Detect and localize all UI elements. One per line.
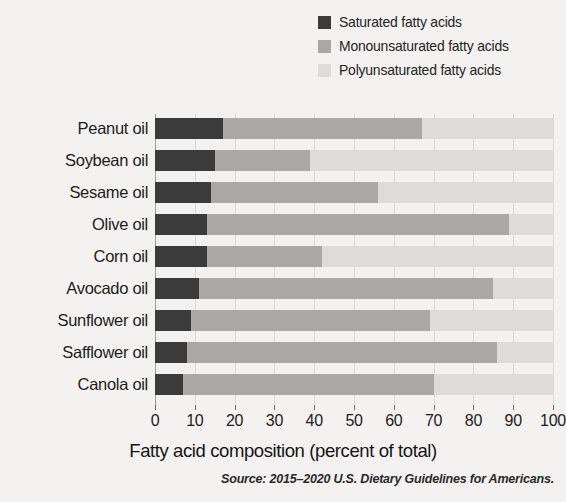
bar-segment bbox=[183, 374, 434, 395]
bar-segment bbox=[155, 342, 187, 363]
legend-item: Monounsaturated fatty acids bbox=[318, 34, 566, 58]
y-axis-label: Safflower oil bbox=[0, 343, 148, 362]
bar-row bbox=[155, 246, 553, 267]
bar-segment bbox=[422, 118, 553, 139]
bar-segment bbox=[434, 374, 553, 395]
bar-segment bbox=[191, 310, 430, 331]
bar-row bbox=[155, 118, 553, 139]
y-axis-label: Sunflower oil bbox=[0, 311, 148, 330]
legend-swatch-icon bbox=[318, 64, 331, 77]
bar-segment bbox=[497, 342, 553, 363]
tick-mark bbox=[473, 405, 474, 410]
bar-segment bbox=[187, 342, 497, 363]
bar-segment bbox=[207, 214, 509, 235]
bar-segment bbox=[310, 150, 553, 171]
x-axis-tick-label: 0 bbox=[151, 412, 160, 430]
bar-row bbox=[155, 310, 553, 331]
bar-segment bbox=[493, 278, 553, 299]
bar-segment bbox=[155, 278, 199, 299]
bar-segment bbox=[155, 150, 215, 171]
tick-mark bbox=[274, 405, 275, 410]
chart-page: { "chart_data": { "type": "bar", "orient… bbox=[0, 0, 566, 502]
bar-segment bbox=[155, 118, 223, 139]
tick-mark bbox=[394, 405, 395, 410]
bar-segment bbox=[155, 310, 191, 331]
tick-mark bbox=[155, 405, 156, 410]
bar-segment bbox=[430, 310, 553, 331]
bar-row bbox=[155, 342, 553, 363]
bar-segment bbox=[322, 246, 553, 267]
bar-segment bbox=[199, 278, 494, 299]
gridline bbox=[553, 114, 554, 408]
x-axis-tick-label: 10 bbox=[186, 412, 203, 430]
legend-item-label: Monounsaturated fatty acids bbox=[339, 38, 509, 54]
x-axis-tick-label: 100 bbox=[540, 412, 566, 430]
source-note: Source: 2015–2020 U.S. Dietary Guideline… bbox=[0, 472, 554, 486]
bar-row bbox=[155, 214, 553, 235]
tick-mark bbox=[354, 405, 355, 410]
bar-segment bbox=[155, 214, 207, 235]
bar-row bbox=[155, 374, 553, 395]
bar-segment bbox=[155, 182, 211, 203]
x-axis-tick-label: 30 bbox=[266, 412, 283, 430]
legend-item-label: Polyunsaturated fatty acids bbox=[339, 62, 501, 78]
bar-segment bbox=[509, 214, 553, 235]
legend-swatch-icon bbox=[318, 16, 331, 29]
tick-mark bbox=[513, 405, 514, 410]
tick-mark bbox=[434, 405, 435, 410]
x-axis-tick-label: 40 bbox=[306, 412, 323, 430]
x-axis-tick-label: 90 bbox=[505, 412, 522, 430]
y-axis-label: Corn oil bbox=[0, 247, 148, 266]
plot-area bbox=[155, 114, 553, 408]
legend-item: Saturated fatty acids bbox=[318, 10, 566, 34]
tick-mark bbox=[195, 405, 196, 410]
x-axis-tick-label: 50 bbox=[345, 412, 362, 430]
bar-segment bbox=[155, 246, 207, 267]
bar-row bbox=[155, 278, 553, 299]
x-axis-title: Fatty acid composition (percent of total… bbox=[0, 440, 566, 462]
bar-row bbox=[155, 182, 553, 203]
legend-item: Polyunsaturated fatty acids bbox=[318, 58, 566, 82]
bar-row bbox=[155, 150, 553, 171]
legend-swatch-icon bbox=[318, 40, 331, 53]
y-axis-label: Sesame oil bbox=[0, 183, 148, 202]
tick-mark bbox=[314, 405, 315, 410]
legend-item-label: Saturated fatty acids bbox=[339, 14, 462, 30]
y-axis-label: Canola oil bbox=[0, 375, 148, 394]
y-axis-label: Avocado oil bbox=[0, 279, 148, 298]
x-axis-tick-label: 20 bbox=[226, 412, 243, 430]
bar-segment bbox=[215, 150, 311, 171]
x-axis-tick-label: 70 bbox=[425, 412, 442, 430]
bar-segment bbox=[223, 118, 422, 139]
bar-segment bbox=[378, 182, 553, 203]
tick-mark bbox=[553, 405, 554, 410]
tick-mark bbox=[235, 405, 236, 410]
y-axis-label: Peanut oil bbox=[0, 119, 148, 138]
y-axis-label: Olive oil bbox=[0, 215, 148, 234]
bar-segment bbox=[207, 246, 322, 267]
bar-segment bbox=[211, 182, 378, 203]
chart-legend: Saturated fatty acidsMonounsaturated fat… bbox=[318, 10, 566, 82]
x-axis-ticks: 0102030405060708090100 bbox=[155, 409, 553, 433]
bar-segment bbox=[155, 374, 183, 395]
x-axis-tick-label: 60 bbox=[385, 412, 402, 430]
y-axis-label: Soybean oil bbox=[0, 151, 148, 170]
x-axis-tick-label: 80 bbox=[465, 412, 482, 430]
